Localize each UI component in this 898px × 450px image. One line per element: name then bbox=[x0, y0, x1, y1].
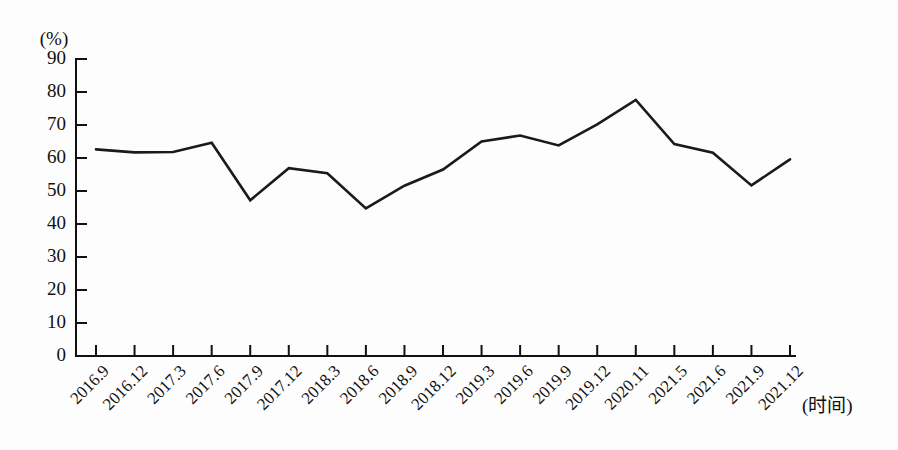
y-axis-group: 0102030405060708090 bbox=[47, 47, 87, 365]
y-axis-tick-label: 60 bbox=[47, 146, 66, 167]
y-axis-tick-label: 20 bbox=[47, 278, 66, 299]
x-axis-group: 2016.92016.122017.32017.62017.92017.1220… bbox=[66, 345, 806, 414]
x-axis-tick-labels: 2016.92016.122017.32017.62017.92017.1220… bbox=[66, 361, 806, 414]
y-axis-tick-label: 70 bbox=[47, 113, 66, 134]
y-axis-tick-label: 80 bbox=[47, 80, 66, 101]
x-axis-tick-label: 2018.3 bbox=[298, 361, 344, 407]
x-axis-tick-label: 2021.5 bbox=[645, 361, 691, 407]
y-axis-unit-label: (%) bbox=[40, 28, 68, 50]
x-axis-tick-label: 2021.6 bbox=[683, 361, 729, 407]
y-axis-ticks bbox=[76, 59, 87, 356]
x-axis-tick-label: 2018.6 bbox=[336, 361, 382, 407]
data-series-line bbox=[96, 100, 790, 209]
chart-page: 0102030405060708090 2016.92016.122017.32… bbox=[0, 0, 898, 450]
x-axis-ticks bbox=[96, 345, 790, 356]
x-axis-tick-label: 2017.3 bbox=[143, 361, 189, 407]
y-axis-tick-label: 50 bbox=[47, 179, 66, 200]
x-axis-tick-label: 2017.6 bbox=[182, 361, 228, 407]
y-axis-tick-label: 30 bbox=[47, 245, 66, 266]
y-axis-tick-label: 40 bbox=[47, 212, 66, 233]
y-axis-tick-labels: 0102030405060708090 bbox=[47, 47, 66, 365]
y-axis-tick-label: 90 bbox=[47, 47, 66, 68]
y-axis-tick-label: 0 bbox=[57, 344, 67, 365]
x-axis-tick-label: 2019.6 bbox=[490, 361, 536, 407]
x-axis-tick-label: 2019.3 bbox=[452, 361, 498, 407]
x-axis-title: (时间) bbox=[802, 395, 853, 417]
y-axis-tick-label: 10 bbox=[47, 311, 66, 332]
line-chart: 0102030405060708090 2016.92016.122017.32… bbox=[0, 0, 898, 450]
